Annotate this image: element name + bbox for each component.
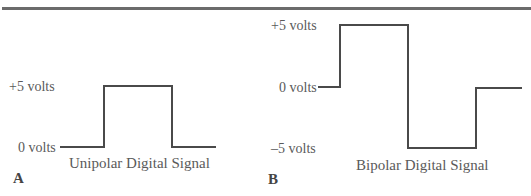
bipolar-waveform [318, 25, 522, 148]
unipolar-caption: Unipolar Digital Signal [69, 156, 210, 171]
unipolar-waveform [60, 86, 216, 147]
bipolar-plus5-label: +5 volts [271, 19, 317, 33]
unipolar-plus5-label: +5 volts [9, 80, 55, 94]
unipolar-zero-label: 0 volts [18, 141, 56, 155]
bipolar-zero-label: 0 volts [279, 81, 317, 95]
bipolar-caption: Bipolar Digital Signal [356, 158, 489, 173]
bipolar-minus5-label: –5 volts [271, 142, 316, 156]
panel-label-a: A [13, 171, 24, 186]
panel-label-b: B [268, 172, 278, 187]
